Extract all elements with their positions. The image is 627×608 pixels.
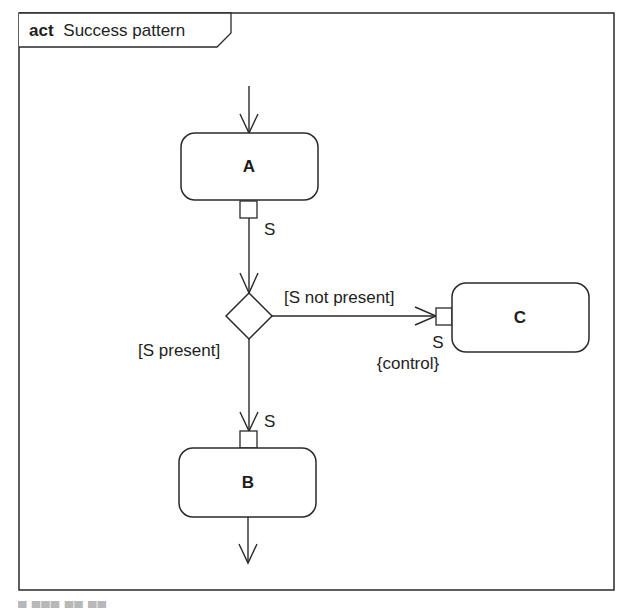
action-b-label: B <box>242 473 254 492</box>
pin-a-output[interactable] <box>240 201 257 218</box>
pin-c-label: S <box>432 333 443 352</box>
action-a-label: A <box>243 157 255 176</box>
action-b[interactable]: B <box>179 448 316 517</box>
activity-diagram: act Success pattern A S [S not present] … <box>0 0 627 608</box>
pin-c-input[interactable] <box>436 308 452 325</box>
flow-decision-to-c <box>272 307 436 325</box>
decision-node[interactable] <box>226 293 272 339</box>
pin-b-input[interactable] <box>240 431 257 448</box>
frame-name: Success pattern <box>63 21 185 40</box>
action-c-label: C <box>514 308 526 327</box>
pin-c-stereotype: {control} <box>377 354 440 373</box>
flow-decision-to-b <box>240 339 258 431</box>
cropped-caption: █ ███ ██ ██ ██ <box>18 601 118 608</box>
frame-title: act Success pattern <box>29 21 185 40</box>
pin-b-label: S <box>264 412 275 431</box>
guard-s-present: [S present] <box>138 341 220 360</box>
flow-a-to-decision <box>240 218 258 293</box>
incoming-flow-a <box>240 86 258 133</box>
frame-keyword: act <box>29 21 54 40</box>
guard-s-not-present: [S not present] <box>284 288 395 307</box>
pin-a-label: S <box>264 220 275 239</box>
outgoing-flow-b <box>239 517 257 563</box>
action-a[interactable]: A <box>181 133 318 200</box>
action-c[interactable]: C <box>452 283 589 352</box>
